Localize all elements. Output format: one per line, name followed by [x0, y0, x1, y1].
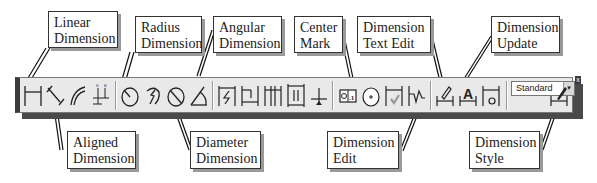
callout-dimension-update: Dimension Update	[491, 16, 560, 53]
callout-aligned-dimension: Aligned Dimension	[67, 131, 136, 169]
diameter-dimension-icon	[165, 82, 187, 109]
ordinate-dimension-button[interactable]: 08	[90, 82, 112, 109]
dimension-space-button[interactable]	[285, 82, 307, 109]
callout-dimension-text-edit: Dimension Text Edit	[357, 16, 431, 53]
dimension-edit-button[interactable]	[434, 82, 456, 109]
callout-dimension-edit: Dimension Edit	[327, 131, 399, 169]
dimension-style-button[interactable]	[548, 82, 570, 109]
jogged-dimension-button[interactable]	[142, 82, 164, 109]
svg-text:8: 8	[104, 83, 107, 88]
jogged-linear-icon	[406, 82, 428, 109]
callout-diameter-dimension: Diameter Dimension	[190, 131, 261, 169]
quick-dimension-button[interactable]	[216, 82, 238, 109]
svg-text:.1: .1	[349, 94, 355, 102]
separator	[332, 81, 334, 110]
center-mark-button[interactable]	[360, 82, 382, 109]
dimension-toolbar: 08 .1	[15, 77, 573, 113]
baseline-dimension-icon	[239, 82, 261, 109]
dimension-update-icon	[480, 82, 502, 109]
dimension-style-icon	[548, 82, 570, 109]
jogged-dimension-icon	[142, 82, 164, 109]
dimension-break-icon	[308, 82, 330, 109]
ordinate-dimension-icon: 08	[90, 82, 112, 109]
diameter-dimension-button[interactable]	[165, 82, 187, 109]
dimension-text-edit-icon: A	[457, 82, 479, 109]
separator	[506, 81, 508, 110]
svg-text:0: 0	[96, 83, 99, 88]
inspection-button[interactable]	[383, 82, 405, 109]
tolerance-button[interactable]: .1	[337, 82, 359, 109]
jogged-linear-button[interactable]	[406, 82, 428, 109]
radius-dimension-icon	[119, 82, 141, 109]
continue-dimension-button[interactable]	[262, 82, 284, 109]
angular-dimension-icon	[188, 82, 210, 109]
arc-length-button[interactable]	[67, 82, 89, 109]
continue-dimension-icon	[262, 82, 284, 109]
dimension-text-edit-button[interactable]: A	[457, 82, 479, 109]
baseline-dimension-button[interactable]	[239, 82, 261, 109]
angular-dimension-button[interactable]	[188, 82, 210, 109]
toolbar-close-button[interactable]: x	[575, 76, 581, 84]
separator	[115, 81, 117, 110]
callout-radius-dimension: Radius Dimension	[135, 16, 202, 53]
tolerance-icon: .1	[337, 82, 359, 109]
linear-dimension-button[interactable]	[22, 82, 44, 109]
inspection-icon	[383, 82, 405, 109]
arc-length-icon	[67, 82, 89, 109]
callout-dimension-style: Dimension Style	[469, 131, 540, 169]
quick-dimension-icon	[216, 82, 238, 109]
aligned-dimension-icon	[44, 82, 66, 109]
svg-text:A: A	[463, 86, 473, 102]
dimension-update-button[interactable]	[480, 82, 502, 109]
dimension-break-button[interactable]	[308, 82, 330, 109]
callout-linear-dimension: Linear Dimension	[48, 11, 118, 48]
dimension-edit-icon	[434, 82, 456, 109]
separator	[430, 81, 432, 110]
dimension-space-icon	[285, 82, 307, 109]
center-mark-icon	[360, 82, 382, 109]
linear-dimension-icon	[22, 82, 44, 109]
separator	[212, 81, 214, 110]
aligned-dimension-button[interactable]	[44, 82, 66, 109]
callout-angular-dimension: Angular Dimension	[213, 16, 282, 53]
callout-center-mark: Center Mark	[294, 16, 343, 53]
radius-dimension-button[interactable]	[119, 82, 141, 109]
